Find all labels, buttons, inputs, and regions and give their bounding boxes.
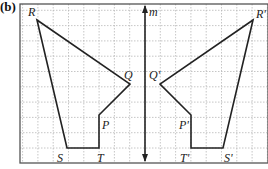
vertex-label-q-prime: Q'	[149, 68, 161, 82]
grid-lines	[20, 4, 268, 163]
vertex-label-r-prime: R'	[255, 7, 266, 21]
axis-label-m: m	[149, 5, 158, 19]
vertex-label-q: Q	[124, 68, 133, 82]
vertex-label-r: R	[27, 5, 36, 19]
original-shape-rqpts	[37, 20, 130, 148]
mirror-line-m	[142, 5, 148, 162]
vertex-label-s-prime: S'	[224, 151, 233, 165]
grid-frame	[20, 4, 268, 163]
image-shape-reflected	[160, 20, 253, 148]
vertex-label-p-prime: P'	[178, 118, 189, 132]
reflection-diagram: RQPTSR'Q'P'T'S' m	[0, 0, 268, 169]
vertex-label-s: S	[57, 151, 63, 165]
arrow-down-icon	[142, 154, 148, 162]
vertex-label-p: P	[101, 118, 110, 132]
vertex-label-t-prime: T'	[180, 151, 190, 165]
vertex-labels: RQPTSR'Q'P'T'S'	[27, 5, 266, 165]
arrow-up-icon	[142, 5, 148, 13]
